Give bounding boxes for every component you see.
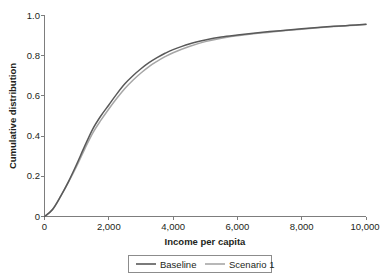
x-axis-title: Income per capita xyxy=(165,236,246,247)
y-tick-label: 1.0 xyxy=(27,10,40,21)
y-tick-label: 0.2 xyxy=(27,170,40,181)
y-tick-label: 0.8 xyxy=(27,50,40,61)
x-tick-label: 0 xyxy=(42,221,47,232)
x-tick-label: 4,000 xyxy=(161,221,185,232)
x-tick-label: 6,000 xyxy=(226,221,250,232)
x-tick-marks xyxy=(45,217,367,221)
legend-label-baseline: Baseline xyxy=(160,259,196,270)
cumulative-distribution-line-chart: Cumulative distribution 1.0 0.8 0.6 0.4 … xyxy=(0,0,391,279)
legend-label-scenario-1: Scenario 1 xyxy=(229,259,274,270)
series-line-scenario-1 xyxy=(45,25,367,217)
x-tick-label: 10,000 xyxy=(350,221,379,232)
y-tick-marks xyxy=(41,16,45,217)
x-tick-label: 8,000 xyxy=(290,221,314,232)
chart-figure: Cumulative distribution 1.0 0.8 0.6 0.4 … xyxy=(0,0,391,279)
series-line-baseline xyxy=(45,24,367,216)
x-tick-label: 2,000 xyxy=(97,221,121,232)
x-tick-labels: 0 2,000 4,000 6,000 8,000 10,000 xyxy=(42,221,380,232)
y-axis-title: Cumulative distribution xyxy=(7,63,18,169)
y-tick-label: 0 xyxy=(35,211,40,222)
y-tick-label: 0.4 xyxy=(27,130,40,141)
y-tick-labels: 1.0 0.8 0.6 0.4 0.2 0 xyxy=(27,10,40,222)
y-tick-label: 0.6 xyxy=(27,90,40,101)
axis-lines xyxy=(45,15,367,217)
chart-legend: Baseline Scenario 1 xyxy=(129,256,275,273)
